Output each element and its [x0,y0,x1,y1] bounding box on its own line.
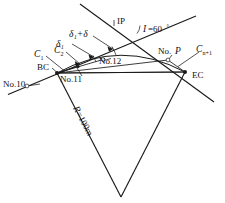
label-no10: No.10 [3,79,26,89]
label-radius-group: R =100m [71,103,95,137]
leader-chord-c2 [66,52,80,64]
leader-chord-cn1 [178,52,199,67]
label-noP-italic-P: P [174,46,181,56]
label-angle-value: =60 [148,24,163,34]
radius-line-ec [121,72,185,197]
label-ec: EC [192,70,204,80]
label-angle-I: I [142,24,147,34]
angle-arc-I [137,26,140,34]
station-marker-no10 [25,84,29,88]
label-chord-c2-subscript: 2 [61,51,64,57]
label-no11: No.11 [60,74,82,84]
label-bc: BC [37,62,49,72]
label-no12: No.12 [99,56,121,66]
sub-chord-bc-ec [57,72,185,73]
forward-tangent-line [80,4,214,102]
curve-layout-diagram: IP I =60 ° δ₁+δ δ₁ C 1 C 2 C n+1 BC EC N… [0,0,225,203]
label-chord-cn1-subscript: n+1 [203,50,212,56]
station-marker-noP [166,58,170,62]
label-noP: No. [158,46,171,56]
label-chord-c1-subscript: 1 [41,55,44,61]
station-marker-no11 [76,65,79,68]
station-marker-bc [55,71,59,75]
label-delta1-plus-delta: δ₁+δ [69,29,88,39]
label-ip: IP [117,16,125,26]
label-angle-degree-symbol: ° [167,24,170,30]
label-radius-value: =100m [74,110,95,137]
leader-delta1-plus-delta [93,36,113,49]
station-marker-ec [183,70,187,74]
leader-delta1 [72,44,94,57]
